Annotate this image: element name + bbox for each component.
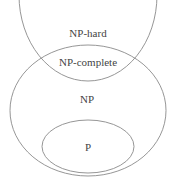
np-hard-label: NP-hard [69, 27, 107, 39]
np-complete-label: NP-complete [59, 56, 117, 68]
np-hard-region [19, 0, 157, 81]
np-label: NP [80, 93, 94, 105]
complexity-classes-diagram: NP-hard NP-complete NP P [0, 0, 173, 187]
p-label: P [85, 141, 91, 153]
